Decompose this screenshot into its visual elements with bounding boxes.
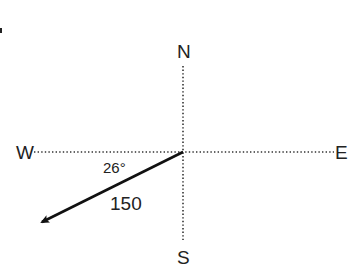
angle-label: 26° — [103, 159, 126, 176]
magnitude-label: 150 — [110, 193, 142, 214]
compass-diagram: N W E S 26° 150 — [0, 0, 355, 271]
south-label: S — [177, 247, 190, 268]
east-label: E — [335, 142, 348, 163]
north-label: N — [177, 41, 191, 62]
stray-dot — [0, 28, 2, 33]
west-label: W — [16, 142, 34, 163]
